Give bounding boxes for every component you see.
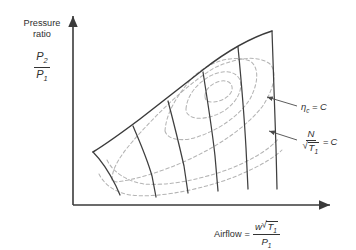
sqrt-icon-speed: T1 [303, 141, 319, 155]
corrected-speed-denominator: T1 [301, 141, 321, 155]
efficiency-annotation: ηc = C [301, 101, 327, 114]
y-axis-fraction-denominator: P1 [34, 68, 50, 85]
efficiency-symbol-subscript: c [306, 107, 309, 114]
y-axis-title-line2: ratio [33, 29, 51, 39]
efficiency-equals: = [312, 101, 317, 112]
speed-leader-line [269, 131, 297, 140]
compressor-map-figure: Pressure ratio P2 P1 Airflow = wT1 P1 ηc… [0, 0, 356, 250]
speed-line-1 [93, 152, 120, 195]
x-axis-fraction-numerator: wT1 [253, 220, 280, 235]
corrected-speed-numerator: N [306, 128, 317, 141]
speed-line-3 [168, 101, 188, 193]
eta-contour-second [186, 72, 241, 118]
eta-contour-lower-tail-2 [107, 139, 278, 184]
x-axis-label-text: Airflow [214, 229, 242, 240]
eta-contour-lower-tail [99, 150, 282, 196]
x-axis-title: Airflow = wT1 P1 [214, 220, 280, 249]
y-axis-title-line1: Pressure [24, 18, 61, 28]
speed-line-5 [238, 47, 248, 189]
y-axis-fraction-numerator: P2 [34, 50, 50, 68]
corrected-speed-equals: = [323, 136, 328, 147]
corrected-speed-constant: C [330, 136, 337, 147]
efficiency-constant: C [320, 101, 327, 112]
x-axis-fraction-denominator: P1 [259, 235, 273, 249]
eta-contour-peak [205, 81, 232, 102]
speed-line-group [93, 31, 277, 197]
y-axis-den-subscript: 1 [44, 74, 48, 83]
corrected-speed-annotation: N T1 = C [301, 128, 337, 155]
x-axis-equals: = [245, 229, 250, 240]
y-axis-num-subscript: 2 [44, 56, 48, 65]
y-axis-fraction: P2 P1 [14, 50, 70, 84]
annotation-leader-group [267, 97, 297, 140]
sqrt-icon: T1 [262, 220, 278, 234]
y-axis-title: Pressure ratio [14, 18, 70, 40]
speed-line-6 [272, 31, 277, 189]
efficiency-leader-line [267, 97, 297, 106]
